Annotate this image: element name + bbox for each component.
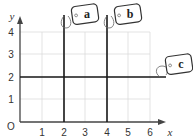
tag-c: c [156,53,193,77]
x-tick: 4 [104,127,110,138]
tag-a-label: a [84,7,90,21]
x-tick: 5 [125,127,131,138]
y-tick: 4 [8,27,14,38]
tag-c-label: c [178,57,184,71]
x-axis-label: x [167,126,173,138]
x-tick: 6 [147,127,153,138]
tag-b: b [104,3,142,28]
x-tick: 2 [61,127,67,138]
y-tick: 3 [8,49,14,60]
x-tick: 3 [82,127,88,138]
y-axis-arrow-icon [17,16,23,24]
origin-label: O [7,121,15,132]
y-axis-label: y [9,10,15,22]
coordinate-plane: 1 2 3 4 5 6 1 2 3 4 O x y a b [0,0,193,140]
tag-b-label: b [127,7,134,21]
x-tick: 1 [39,127,45,138]
x-tick-labels: 1 2 3 4 5 6 [39,127,153,138]
y-tick: 1 [8,94,14,105]
tag-a: a [61,3,99,28]
y-tick: 2 [8,72,14,83]
y-tick-labels: 1 2 3 4 [8,27,14,105]
x-axis-arrow-icon [158,119,166,125]
